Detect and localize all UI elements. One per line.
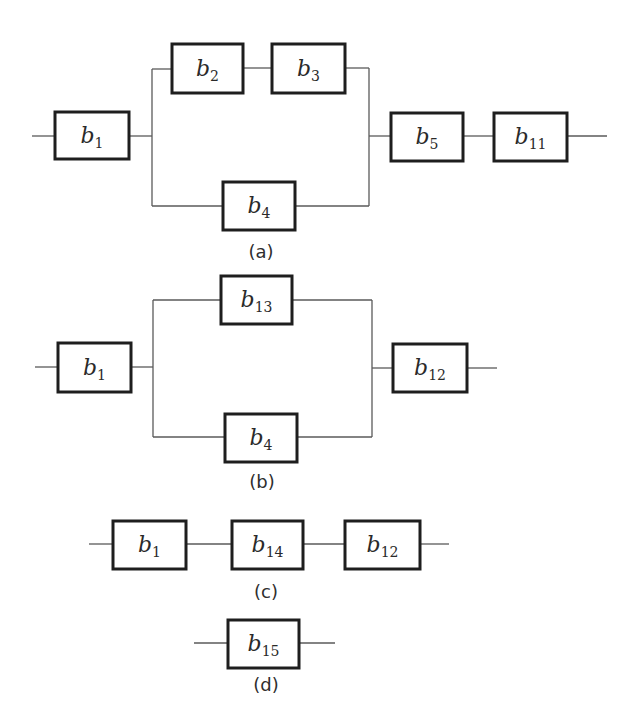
block-b12: b12 xyxy=(345,521,420,569)
diagram-caption: (a) xyxy=(248,241,273,262)
block-label-subscript: 12 xyxy=(381,544,399,560)
block-label-subscript: 2 xyxy=(210,68,219,84)
block-label-subscript: 13 xyxy=(255,299,273,315)
block-label-variable: b xyxy=(83,355,97,380)
block-b4: b4 xyxy=(223,182,295,230)
block-label-variable: b xyxy=(414,355,428,380)
block-label-subscript: 14 xyxy=(266,544,284,560)
block-label-subscript: 1 xyxy=(97,367,106,383)
diagram-caption: (d) xyxy=(253,674,278,695)
block-label-variable: b xyxy=(367,532,381,557)
diagram-caption: (c) xyxy=(254,581,278,602)
block-label-variable: b xyxy=(80,123,94,148)
block-label-variable: b xyxy=(196,56,210,81)
block-label-variable: b xyxy=(515,124,529,149)
block-b15: b15 xyxy=(228,620,299,668)
block-b14: b14 xyxy=(232,521,303,569)
block-label-subscript: 1 xyxy=(152,544,161,560)
block-label-variable: b xyxy=(415,124,429,149)
block-label-subscript: 3 xyxy=(311,68,320,84)
block-b13: b13 xyxy=(221,276,292,324)
block-label-variable: b xyxy=(247,193,261,218)
block-label-variable: b xyxy=(248,631,262,656)
block-label-variable: b xyxy=(252,532,266,557)
block-b11: b11 xyxy=(494,113,567,161)
block-b5: b5 xyxy=(391,113,463,161)
block-label-subscript: 4 xyxy=(262,205,271,221)
block-label-variable: b xyxy=(249,425,263,450)
block-label-variable: b xyxy=(297,56,311,81)
block-label-subscript: 1 xyxy=(95,135,104,151)
block-label-variable: b xyxy=(241,287,255,312)
block-b12: b12 xyxy=(393,344,467,392)
block-label-subscript: 11 xyxy=(529,136,547,152)
reliability-block-diagram-figure: b1b2b3b4b5b11(a)b1b13b4b12(b)b1b14b12(c)… xyxy=(0,0,631,722)
block-b2: b2 xyxy=(172,44,243,93)
block-b1: b1 xyxy=(58,343,131,392)
block-b4: b4 xyxy=(225,414,297,462)
block-label-subscript: 12 xyxy=(428,367,446,383)
block-b1: b1 xyxy=(55,112,129,159)
block-b3: b3 xyxy=(272,44,345,93)
block-b1: b1 xyxy=(113,521,186,569)
block-label-subscript: 5 xyxy=(430,136,439,152)
block-label-subscript: 15 xyxy=(262,643,280,659)
block-label-subscript: 4 xyxy=(264,437,273,453)
diagram-caption: (b) xyxy=(249,471,274,492)
block-label-variable: b xyxy=(138,532,152,557)
